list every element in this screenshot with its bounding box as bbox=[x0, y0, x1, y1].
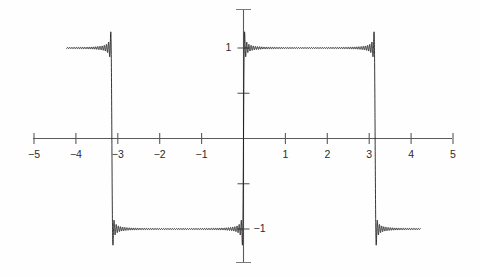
x-tick-label: −5 bbox=[28, 149, 40, 160]
y-tick-label: 1 bbox=[226, 42, 232, 53]
x-tick-label: −4 bbox=[70, 149, 82, 160]
x-tick-label: 2 bbox=[324, 149, 330, 160]
plot-canvas bbox=[0, 0, 480, 277]
x-tick-label: 5 bbox=[450, 149, 456, 160]
y-tick-label: −1 bbox=[254, 223, 266, 234]
x-tick-label: 3 bbox=[366, 149, 372, 160]
gibbs-phenomenon-figure: −5−4−3−2−112345 1−1 bbox=[0, 0, 480, 277]
x-tick-label: −2 bbox=[154, 149, 166, 160]
x-tick-label: 1 bbox=[282, 149, 288, 160]
x-tick-label: −3 bbox=[112, 149, 124, 160]
x-tick-label: −1 bbox=[196, 149, 208, 160]
x-tick-label: 4 bbox=[408, 149, 414, 160]
